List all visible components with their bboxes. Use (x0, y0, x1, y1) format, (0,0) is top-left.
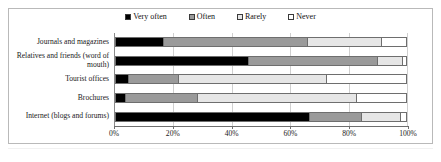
legend-item-very-often: Very often (125, 12, 167, 22)
x-axis-tick-label: 100% (399, 129, 417, 139)
bar-segment-rarely (198, 93, 358, 103)
bar-segment-never (382, 37, 407, 47)
legend-item-often: Often (189, 12, 215, 22)
bar-segment-very-often (115, 56, 249, 66)
bar-segment-very-often (115, 112, 310, 122)
legend-swatch-often (189, 14, 195, 20)
bar-segment-rarely (308, 37, 382, 47)
caption-divider (8, 148, 433, 149)
bar-rows (115, 33, 407, 126)
legend-label-often: Often (197, 12, 215, 22)
stacked-bar (115, 56, 407, 66)
legend-label-very-often: Very often (133, 12, 167, 22)
x-axis-tick-label: 20% (166, 129, 180, 139)
bar-row (115, 70, 407, 89)
bar-segment-never (403, 56, 407, 66)
bar-segment-very-often (115, 74, 129, 84)
legend-swatch-rarely (237, 14, 243, 20)
stacked-bar (115, 112, 407, 122)
y-axis-label-brochures: Brochures (8, 89, 112, 108)
chart-legend: Very often Often Rarely Never (0, 12, 441, 22)
gridline (407, 33, 408, 126)
stacked-bar (115, 37, 407, 47)
y-axis-category-labels: Journals and magazines Relatives and fri… (8, 33, 112, 126)
bar-segment-often (164, 37, 308, 47)
bar-segment-often (126, 93, 198, 103)
legend-label-rarely: Rarely (245, 12, 266, 22)
legend-swatch-very-often (125, 14, 131, 20)
bar-segment-rarely (362, 112, 401, 122)
plot-area (114, 33, 408, 126)
x-axis-tick-labels: 0%20%40%60%80%100% (114, 129, 408, 141)
stacked-bar (115, 93, 407, 103)
bar-segment-very-often (115, 93, 126, 103)
bar-segment-rarely (378, 56, 403, 66)
bar-segment-often (310, 112, 361, 122)
legend-item-rarely: Rarely (237, 12, 266, 22)
stacked-bar (115, 74, 407, 84)
x-axis-tick-label: 40% (225, 129, 239, 139)
bar-segment-never (327, 74, 407, 84)
legend-label-never: Never (296, 12, 316, 22)
y-axis-label-relatives: Relatives and friends (word of mouth) (8, 52, 112, 71)
bar-segment-never (401, 112, 407, 122)
bar-segment-rarely (179, 74, 326, 84)
x-axis-tick-label: 80% (342, 129, 356, 139)
y-axis-label-journals: Journals and magazines (8, 33, 112, 52)
bar-segment-often (249, 56, 378, 66)
y-axis-label-tourist-offices: Tourist offices (8, 70, 112, 89)
x-axis-tick-label: 60% (283, 129, 297, 139)
legend-item-never: Never (288, 12, 316, 22)
bar-row (115, 52, 407, 71)
bar-segment-often (129, 74, 179, 84)
bar-row (115, 89, 407, 108)
x-axis-tick-label: 0% (109, 129, 119, 139)
figure: Very often Often Rarely Never Journals a… (0, 0, 441, 162)
bar-segment-very-often (115, 37, 164, 47)
y-axis-label-internet: Internet (blogs and forums) (8, 107, 112, 126)
legend-swatch-never (288, 14, 294, 20)
bar-row (115, 107, 407, 126)
bar-row (115, 33, 407, 52)
bar-segment-never (357, 93, 407, 103)
